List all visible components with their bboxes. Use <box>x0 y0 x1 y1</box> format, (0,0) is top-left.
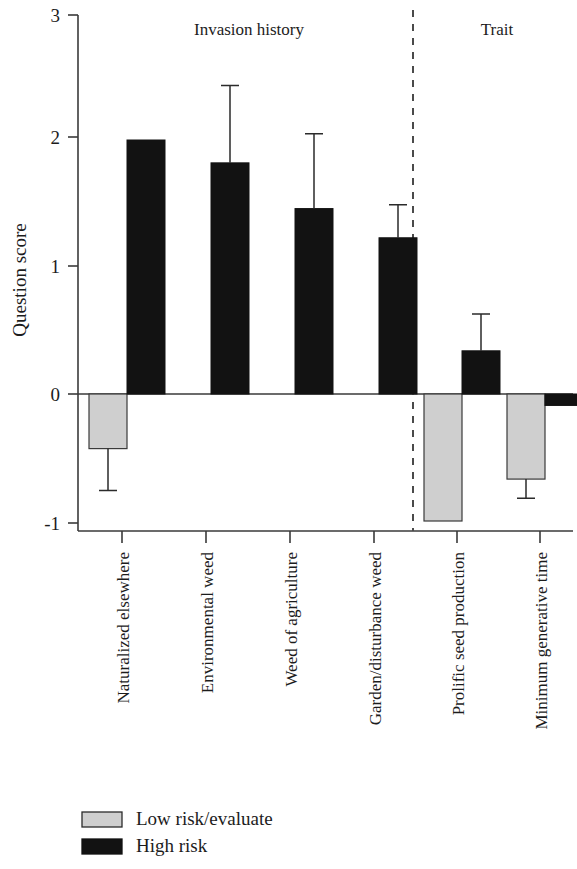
error-bar-high-risk-weed-of-agriculture <box>305 134 323 209</box>
legend-label-high-risk: High risk <box>136 835 208 856</box>
error-bar-low-risk-naturalized-elsewhere <box>99 449 117 491</box>
error-bar-high-risk-garden-disturbance-weed <box>389 205 407 238</box>
y-axis-title: Question score <box>9 223 30 336</box>
error-bar-low-risk-minimum-generative-time <box>517 479 535 498</box>
bar-low-risk-prolific-seed-production[interactable] <box>424 394 462 521</box>
x-tick-label-garden-disturbance-weed: Garden/disturbance weed <box>366 552 385 726</box>
bar-group-weed-of-agriculture <box>295 134 333 394</box>
y-tick-label-minus-1: -1 <box>44 513 60 534</box>
bar-low-risk-minimum-generative-time[interactable] <box>507 394 545 479</box>
x-tick-label-weed-of-agriculture: Weed of agriculture <box>282 552 301 687</box>
question-score-bar-chart: Invasion history Trait 3 2 1 0 -1 Questi… <box>0 0 577 869</box>
y-tick-label-0: 0 <box>51 384 61 405</box>
legend-label-low-risk: Low risk/evaluate <box>136 808 273 829</box>
bar-group-minimum-generative-time <box>507 394 577 498</box>
y-tick-label-1: 1 <box>51 256 61 277</box>
legend: Low risk/evaluate High risk <box>82 808 273 856</box>
bar-high-risk-garden-disturbance-weed[interactable] <box>379 238 417 394</box>
bar-group-naturalized-elsewhere <box>89 140 165 491</box>
error-bar-high-risk-prolific-seed-production <box>472 314 490 351</box>
group-headers: Invasion history Trait <box>194 20 514 39</box>
y-tick-label-2: 2 <box>51 127 61 148</box>
x-axis-category-labels: Naturalized elsewhere Environmental weed… <box>114 552 551 730</box>
group-header-trait: Trait <box>481 20 514 39</box>
group-header-invasion-history: Invasion history <box>194 20 305 39</box>
x-axis <box>78 531 573 543</box>
y-axis: 3 2 1 0 -1 Question score <box>9 5 78 534</box>
x-tick-label-naturalized-elsewhere: Naturalized elsewhere <box>114 552 133 704</box>
low-risk-swatch <box>82 812 122 827</box>
bar-high-risk-naturalized-elsewhere[interactable] <box>127 140 165 394</box>
bar-low-risk-naturalized-elsewhere[interactable] <box>89 394 127 449</box>
bar-high-risk-weed-of-agriculture[interactable] <box>295 209 333 394</box>
x-tick-label-minimum-generative-time: Minimum generative time <box>532 552 551 730</box>
bar-high-risk-prolific-seed-production[interactable] <box>462 351 500 394</box>
bar-high-risk-environmental-weed[interactable] <box>211 163 249 394</box>
chart-svg: Invasion history Trait 3 2 1 0 -1 Questi… <box>0 0 577 869</box>
high-risk-swatch <box>82 839 122 854</box>
x-tick-label-prolific-seed-production: Prolific seed production <box>449 552 468 716</box>
bar-group-prolific-seed-production <box>424 314 500 521</box>
bar-high-risk-minimum-generative-time[interactable] <box>545 394 577 405</box>
x-tick-label-environmental-weed: Environmental weed <box>198 552 217 694</box>
bar-group-garden-disturbance-weed <box>379 205 417 394</box>
error-bar-high-risk-environmental-weed <box>221 85 239 162</box>
y-tick-label-3: 3 <box>51 5 61 26</box>
bar-group-environmental-weed <box>211 85 249 394</box>
